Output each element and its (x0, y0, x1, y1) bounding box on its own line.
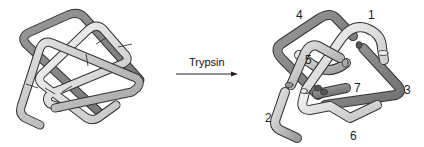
label-7: 7 (354, 81, 361, 95)
label-6: 6 (350, 129, 357, 143)
arrow-label: Trypsin (189, 56, 225, 68)
label-4: 4 (296, 8, 303, 22)
reaction-arrow: Trypsin (176, 56, 238, 77)
cleaved-protein: 4 1 5 7 3 2 6 (265, 8, 411, 143)
label-3: 3 (404, 83, 411, 97)
intact-protein (21, 13, 141, 125)
fragment-2 (275, 92, 297, 138)
label-5: 5 (305, 53, 312, 67)
label-2: 2 (265, 111, 272, 125)
arrow-head-icon (231, 72, 238, 77)
label-1: 1 (368, 8, 375, 22)
trypsin-cleavage-diagram: Trypsin (0, 0, 424, 147)
